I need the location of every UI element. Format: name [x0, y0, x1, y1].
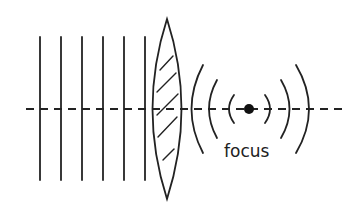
focus-point	[244, 104, 254, 114]
focus-label: focus	[224, 141, 270, 161]
lens-focus-diagram: focus	[0, 0, 363, 212]
wavefront-arc-small-left	[229, 95, 234, 123]
lens-hatching	[157, 56, 178, 160]
